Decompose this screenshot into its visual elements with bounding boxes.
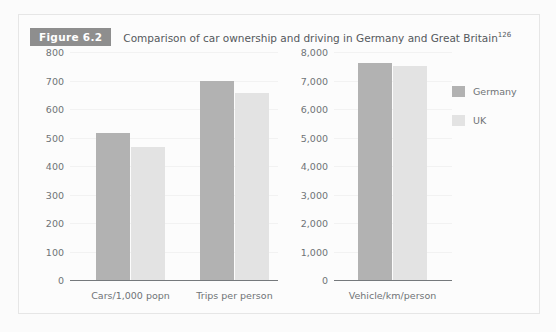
figure-card: Figure 6.2 Comparison of car ownership a… xyxy=(0,0,556,332)
y-axis-tick-label: 500 xyxy=(46,132,64,143)
y-axis-tick-label: 0 xyxy=(58,275,64,286)
x-axis-category-label: Vehicle/km/person xyxy=(349,290,437,301)
y-axis-tick-label: 300 xyxy=(46,189,64,200)
bar-germany xyxy=(200,81,234,281)
y-axis-tick-label: 1,000 xyxy=(301,246,328,257)
y-axis-tick-label: 200 xyxy=(46,218,64,229)
figure-caption-label: Comparison of car ownership and driving … xyxy=(123,31,498,43)
bar-germany xyxy=(358,63,392,280)
gridline xyxy=(334,52,452,53)
y-axis-tick-label: 800 xyxy=(46,47,64,58)
y-axis-tick-label: 0 xyxy=(322,275,328,286)
legend-swatch-germany xyxy=(452,86,465,97)
legend-item: UK xyxy=(452,115,532,126)
chart-panel-left: 0100200300400500600700800 Cars/1,000 pop… xyxy=(24,52,282,314)
bar-uk xyxy=(131,147,165,280)
y-axis-tick-label: 700 xyxy=(46,75,64,86)
y-axis-tick-label: 8,000 xyxy=(301,47,328,58)
figure-caption-text: Comparison of car ownership and driving … xyxy=(123,31,511,44)
y-axis-left: 0100200300400500600700800 xyxy=(24,52,70,280)
y-axis-tick-label: 400 xyxy=(46,161,64,172)
plot-area-right xyxy=(334,52,452,281)
y-axis-right: 01,0002,0003,0004,0005,0006,0007,0008,00… xyxy=(284,52,334,280)
x-axis-category-label: Cars/1,000 popn xyxy=(91,290,170,301)
chart-legend: GermanyUK xyxy=(452,86,532,144)
bar-germany xyxy=(96,133,130,280)
figure-caption: Figure 6.2 Comparison of car ownership a… xyxy=(30,28,511,46)
y-axis-tick-label: 100 xyxy=(46,246,64,257)
y-axis-tick-label: 5,000 xyxy=(301,132,328,143)
bar-uk xyxy=(393,66,427,280)
gridline xyxy=(70,52,278,53)
y-axis-tick-label: 6,000 xyxy=(301,104,328,115)
legend-swatch-uk xyxy=(452,115,465,126)
plot-area-left xyxy=(70,52,278,281)
x-axis-category-label: Trips per person xyxy=(196,290,272,301)
bar-uk xyxy=(235,93,269,280)
legend-label: Germany xyxy=(473,86,517,97)
legend-item: Germany xyxy=(452,86,532,97)
y-axis-tick-label: 7,000 xyxy=(301,75,328,86)
gridline xyxy=(70,81,278,82)
figure-reference-superscript: 126 xyxy=(498,31,511,39)
figure-number-badge: Figure 6.2 xyxy=(30,28,111,47)
y-axis-tick-label: 4,000 xyxy=(301,161,328,172)
legend-label: UK xyxy=(473,115,486,126)
y-axis-tick-label: 3,000 xyxy=(301,189,328,200)
y-axis-tick-label: 600 xyxy=(46,104,64,115)
chart-panel-right: 01,0002,0003,0004,0005,0006,0007,0008,00… xyxy=(284,52,460,314)
y-axis-tick-label: 2,000 xyxy=(301,218,328,229)
